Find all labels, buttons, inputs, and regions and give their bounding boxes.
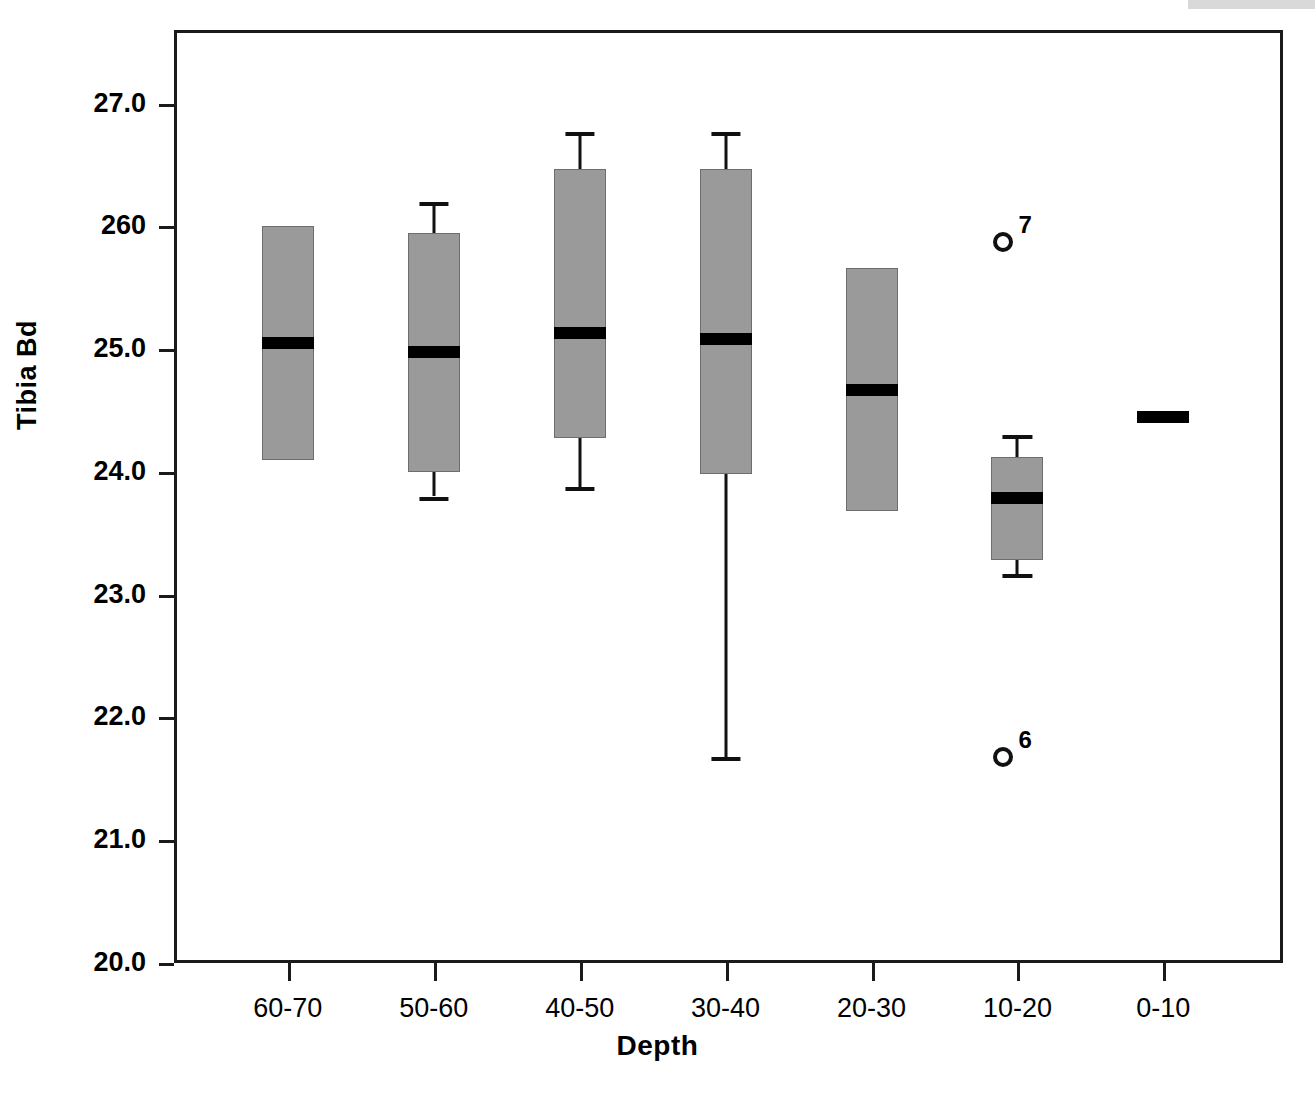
y-axis-tick xyxy=(159,104,174,107)
x-axis-tick-label: 50-60 xyxy=(399,995,468,1022)
x-axis-tick xyxy=(288,963,291,981)
x-axis-tick xyxy=(580,963,583,981)
median-line xyxy=(1137,411,1189,423)
y-axis-tick-label: 23.0 xyxy=(93,581,146,608)
y-axis-tick xyxy=(159,349,174,352)
x-axis-tick xyxy=(1017,963,1020,981)
y-axis-tick-label: 20.0 xyxy=(93,949,146,976)
x-axis-tick-label: 30-40 xyxy=(691,995,760,1022)
y-axis-tick-label: 24.0 xyxy=(93,458,146,485)
scan-artifact xyxy=(1188,0,1315,9)
chart-page: Tibia Bd 27.026025.024.023.022.021.020.0… xyxy=(0,0,1315,1099)
y-axis-tick xyxy=(159,226,174,229)
x-axis-tick-label: 0-10 xyxy=(1136,995,1190,1022)
y-axis-tick xyxy=(159,717,174,720)
y-axis-tick-label: 25.0 xyxy=(93,335,146,362)
y-axis-tick-label: 21.0 xyxy=(93,826,146,853)
x-axis-tick-label: 20-30 xyxy=(837,995,906,1022)
y-axis-tick-label: 27.0 xyxy=(93,90,146,117)
y-axis-tick xyxy=(159,840,174,843)
y-axis-title: Tibia Bd xyxy=(12,320,43,430)
y-axis-tick xyxy=(159,963,174,966)
x-axis-tick xyxy=(434,963,437,981)
x-axis-tick xyxy=(726,963,729,981)
boxplot-group[interactable] xyxy=(174,30,1283,963)
x-axis-tick xyxy=(872,963,875,981)
y-axis-tick-label: 22.0 xyxy=(93,703,146,730)
y-axis-tick xyxy=(159,472,174,475)
x-axis-tick-label: 60-70 xyxy=(253,995,322,1022)
x-axis-tick xyxy=(1163,963,1166,981)
plot-area: 27.026025.024.023.022.021.020.0 60-7050-… xyxy=(174,30,1283,963)
x-axis-title: Depth xyxy=(0,1030,1315,1062)
x-axis-tick-label: 10-20 xyxy=(983,995,1052,1022)
y-axis-tick-label: 260 xyxy=(101,212,146,239)
y-axis-tick xyxy=(159,595,174,598)
x-axis-tick-label: 40-50 xyxy=(545,995,614,1022)
